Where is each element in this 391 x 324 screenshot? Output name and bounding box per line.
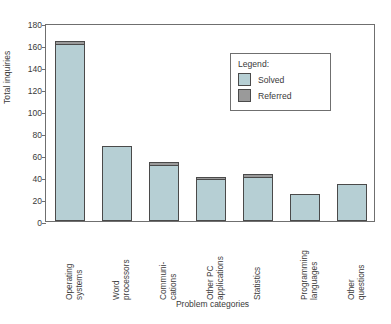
bar[interactable]	[290, 194, 320, 222]
y-tick-mark	[42, 157, 46, 158]
x-tick-label: Operating systems	[65, 226, 84, 300]
x-tick-label: Statistics	[253, 226, 263, 300]
y-tick-label: 120	[15, 87, 42, 96]
bar-slot	[337, 25, 367, 221]
bar-segment-solved	[56, 45, 84, 220]
legend: Legend: SolvedReferred	[230, 53, 331, 111]
y-tick-mark	[42, 113, 46, 114]
y-tick-mark	[42, 91, 46, 92]
bar[interactable]	[196, 177, 226, 221]
bar-segment-solved	[291, 195, 319, 221]
y-tick-label: 20	[15, 197, 42, 206]
legend-swatch-solved	[238, 73, 251, 86]
bar-slot	[196, 25, 226, 221]
bar[interactable]	[337, 184, 367, 221]
x-tick-label: Communi- cations	[159, 226, 178, 300]
legend-swatch-referred	[238, 89, 251, 102]
x-axis-title: Problem categories	[0, 299, 391, 309]
bar[interactable]	[55, 41, 85, 221]
bar[interactable]	[102, 146, 132, 221]
x-tick-label: Word processors	[112, 226, 131, 300]
y-tick-mark	[42, 69, 46, 70]
y-tick-label: 160	[15, 43, 42, 52]
y-tick-mark	[42, 179, 46, 180]
legend-label: Solved	[258, 75, 284, 85]
y-tick-mark	[42, 201, 46, 202]
y-tick-mark	[42, 223, 46, 224]
y-tick-label: 100	[15, 109, 42, 118]
bar-segment-solved	[244, 178, 272, 220]
y-tick-mark	[42, 135, 46, 136]
y-tick-label: 180	[15, 21, 42, 30]
x-tick-label: Other PC applications	[206, 226, 225, 300]
bar-slot	[149, 25, 179, 221]
bar-segment-solved	[338, 185, 366, 220]
y-tick-label: 40	[15, 175, 42, 184]
bar-segment-solved	[103, 147, 131, 220]
y-tick-mark	[42, 25, 46, 26]
legend-entry: Solved	[238, 73, 324, 86]
y-tick-label: 80	[15, 131, 42, 140]
y-tick-label: 0	[15, 219, 42, 228]
bar-slot	[102, 25, 132, 221]
x-tick-label: Programming languages	[300, 226, 319, 300]
bar-slot	[55, 25, 85, 221]
bar[interactable]	[149, 162, 179, 221]
x-tick-label: Other questions	[347, 226, 366, 300]
y-tick-label: 140	[15, 65, 42, 74]
legend-label: Referred	[258, 91, 291, 101]
y-tick-label: 60	[15, 153, 42, 162]
y-axis-title: Total inquiries	[2, 88, 12, 104]
legend-entries: SolvedReferred	[238, 73, 324, 102]
bar[interactable]	[243, 174, 273, 221]
legend-entry: Referred	[238, 89, 324, 102]
bar-segment-solved	[197, 180, 225, 220]
bar-chart: Total inquiries 020406080100120140160180…	[0, 0, 391, 324]
legend-title: Legend:	[238, 59, 324, 69]
bar-segment-solved	[150, 166, 178, 220]
x-axis-title-text: Problem categories	[176, 299, 249, 309]
y-tick-mark	[42, 47, 46, 48]
